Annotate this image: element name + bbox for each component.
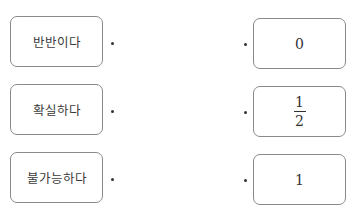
right-value: 1 — [295, 172, 304, 188]
connector-dot[interactable] — [111, 178, 114, 181]
connector-dot[interactable] — [244, 111, 247, 114]
connector-dot[interactable] — [111, 42, 114, 45]
connector-dot[interactable] — [111, 110, 114, 113]
denominator: 2 — [295, 114, 304, 128]
right-card-half[interactable]: 1 2 — [253, 86, 346, 137]
left-label: 확실하다 — [33, 100, 81, 119]
left-card-certain[interactable]: 확실하다 — [10, 84, 103, 135]
left-label: 반반이다 — [33, 32, 81, 51]
connector-dot[interactable] — [244, 43, 247, 46]
left-label: 불가능하다 — [27, 168, 87, 187]
fraction: 1 2 — [294, 95, 306, 128]
right-value: 0 — [295, 36, 304, 52]
fraction-bar — [294, 111, 306, 112]
numerator: 1 — [295, 95, 304, 109]
left-card-impossible[interactable]: 불가능하다 — [10, 152, 103, 203]
right-card-one[interactable]: 1 — [253, 154, 346, 205]
right-card-zero[interactable]: 0 — [253, 18, 346, 69]
left-card-half[interactable]: 반반이다 — [10, 16, 103, 67]
connector-dot[interactable] — [244, 179, 247, 182]
